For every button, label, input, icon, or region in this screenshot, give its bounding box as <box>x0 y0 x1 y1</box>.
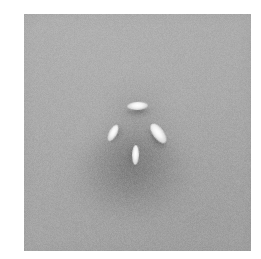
right-feature-shadow <box>143 122 170 152</box>
bottom-feature <box>131 145 139 165</box>
right-feature-core <box>147 120 169 145</box>
right-feature <box>147 120 169 145</box>
left-feature-shadow <box>106 123 125 148</box>
left-feature <box>105 123 121 143</box>
edge-vignette <box>24 14 251 251</box>
top-feature <box>126 101 147 110</box>
field-shading-overlay <box>24 14 251 251</box>
secondary-dark-halo <box>94 110 180 180</box>
top-feature-core <box>126 101 147 110</box>
left-feature-core <box>105 123 121 143</box>
sensor-noise-overlay <box>24 14 251 251</box>
primary-dark-halo <box>76 132 188 218</box>
figure-root <box>0 0 261 259</box>
bottom-feature-shadow <box>127 145 137 169</box>
top-feature-shadow <box>124 106 151 116</box>
upper-dark-halo <box>108 84 168 132</box>
bottom-feature-core <box>131 145 139 165</box>
image-area <box>24 14 251 251</box>
